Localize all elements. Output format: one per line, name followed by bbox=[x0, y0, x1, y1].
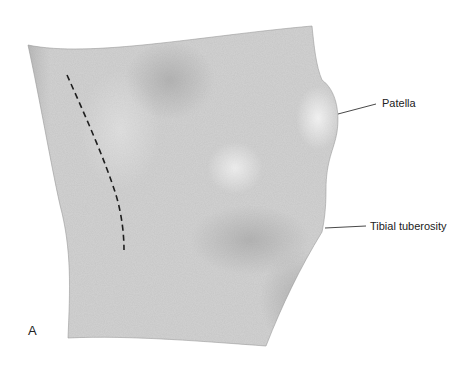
tibial-tuberosity-label: Tibial tuberosity bbox=[370, 220, 447, 232]
tibial-tuberosity-leader-line bbox=[325, 226, 366, 228]
patella-label: Patella bbox=[382, 97, 416, 109]
patella-leader-line bbox=[338, 104, 376, 114]
leg-silhouette bbox=[0, 0, 466, 370]
panel-letter: A bbox=[28, 323, 37, 338]
knee-illustration bbox=[0, 0, 466, 370]
